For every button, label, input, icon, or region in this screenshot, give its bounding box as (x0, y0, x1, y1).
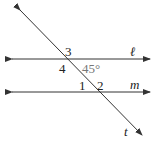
angle-1-label: 1 (79, 78, 86, 93)
line-t-label: t (124, 124, 128, 139)
transversal-t (20, 10, 142, 135)
angle-4-label: 4 (59, 61, 66, 76)
parallel-lines-diagram: 3 4 45° 1 2 ℓ m t (0, 0, 161, 146)
line-m-label: m (130, 77, 139, 92)
line-l-label: ℓ (130, 44, 136, 59)
angle-45-label: 45° (82, 61, 100, 76)
angle-2-label: 2 (97, 78, 104, 93)
diagram-canvas: 3 4 45° 1 2 ℓ m t (0, 0, 161, 146)
angle-3-label: 3 (65, 44, 72, 59)
